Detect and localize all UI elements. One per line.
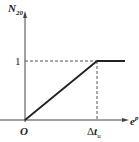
y-axis-label-sub: 20 <box>16 9 23 17</box>
y-axis-label: N20 <box>8 3 23 19</box>
y-axis-arrow-icon <box>23 11 27 18</box>
x-axis-label-sup: p <box>135 114 139 122</box>
x-axis-arrow-icon <box>122 118 129 122</box>
origin-label: O <box>20 126 28 137</box>
x-tick-delta-t-u: Δtu <box>87 126 101 142</box>
x-tick-sub: u <box>97 132 101 140</box>
y-axis-label-main: N <box>8 2 16 14</box>
series-n20-line <box>25 61 125 120</box>
y-tick-1: 1 <box>15 56 21 67</box>
chart-canvas <box>0 0 139 142</box>
x-axis-label: ep <box>130 113 138 127</box>
